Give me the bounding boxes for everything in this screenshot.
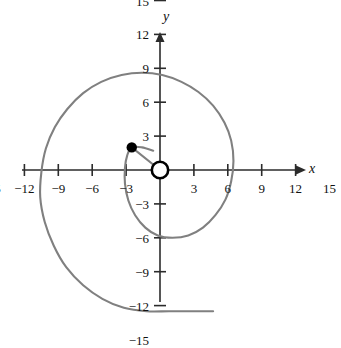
y-tick-label: −12: [119, 300, 149, 313]
closed-point: [127, 142, 137, 152]
x-tick-label: −12: [11, 182, 37, 195]
y-tick-label: −3: [119, 198, 149, 211]
x-axis-arrowhead: [296, 166, 306, 175]
x-tick-label: 9: [249, 182, 275, 195]
y-tick-label: 15: [119, 0, 149, 8]
x-tick-label: 12: [283, 182, 309, 195]
open-point: [152, 162, 168, 178]
y-tick-label: 9: [119, 62, 149, 75]
x-tick-label: −15: [0, 182, 4, 195]
y-axis-arrowhead: [156, 32, 165, 42]
x-tick-label: −3: [113, 182, 139, 195]
y-tick-label: −6: [119, 232, 149, 245]
tick-mark-group: [0, 1, 325, 322]
x-tick-label: −9: [45, 182, 71, 195]
y-tick-label: −15: [119, 334, 149, 347]
y-tick-label: 6: [119, 96, 149, 109]
y-tick-label: 3: [119, 130, 149, 143]
x-tick-label: −6: [79, 182, 105, 195]
y-tick-label: −9: [119, 266, 149, 279]
x-tick-label: 15: [317, 182, 341, 195]
y-axis-label: y: [163, 10, 169, 24]
y-tick-label: 12: [119, 28, 149, 41]
x-tick-label: 6: [215, 182, 241, 195]
x-tick-label: 3: [181, 182, 207, 195]
x-axis-label: x: [309, 162, 315, 176]
